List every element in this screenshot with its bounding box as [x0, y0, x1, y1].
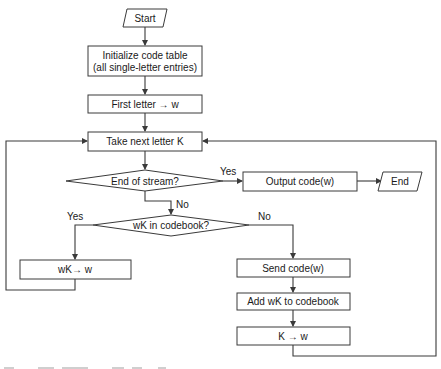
- node-k-to-w: K → w: [237, 327, 350, 345]
- end-label: End: [391, 176, 409, 187]
- init-label-line-1: Initialize code table: [102, 50, 187, 61]
- in-codebook-label: wK in codebook?: [132, 220, 210, 231]
- node-add-wk: Add wK to codebook: [237, 293, 350, 310]
- node-end-of-stream: End of stream?: [66, 170, 223, 191]
- edge-label-in-codebook-yes: Yes: [67, 211, 83, 222]
- send-code-label: Send code(w): [262, 263, 324, 274]
- connectors: [6, 27, 436, 356]
- node-wk-to-w: wK→ w: [20, 260, 131, 279]
- node-start: Start: [123, 9, 167, 27]
- k-to-w-label: K → w: [278, 331, 308, 342]
- node-take-next: Take next letter K: [88, 132, 202, 151]
- wk-to-w-label: wK→ w: [57, 264, 93, 275]
- node-in-codebook: wK in codebook?: [93, 215, 249, 236]
- edge-label-in-codebook-no: No: [258, 211, 271, 222]
- end-of-stream-label: End of stream?: [111, 176, 179, 187]
- first-letter-label: First letter → w: [111, 99, 179, 110]
- init-label-line-2: (all single-letter entries): [93, 62, 197, 73]
- node-output-code: Output code(w): [243, 172, 357, 191]
- output-code-label: Output code(w): [266, 176, 334, 187]
- start-label: Start: [134, 13, 155, 24]
- edge-in-codebook-yes: [75, 225, 93, 259]
- edge-label-end-of-stream-yes: Yes: [220, 166, 236, 177]
- node-send-code: Send code(w): [237, 259, 350, 277]
- take-next-label: Take next letter K: [106, 136, 184, 147]
- edge-end-of-stream-no: [145, 190, 171, 214]
- node-first-letter: First letter → w: [88, 95, 202, 113]
- edge-in-codebook-no: [249, 225, 293, 258]
- edge-label-end-of-stream-no: No: [176, 199, 189, 210]
- node-init: Initialize code table (all single-letter…: [88, 46, 202, 76]
- lzw-flowchart: Start Initialize code table (all single-…: [0, 0, 441, 369]
- node-end: End: [378, 172, 422, 191]
- add-wk-label: Add wK to codebook: [247, 296, 340, 307]
